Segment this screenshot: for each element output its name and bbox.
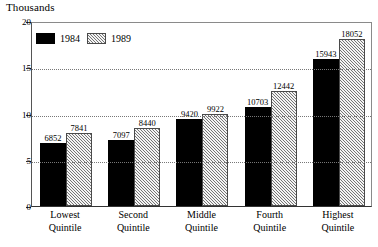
y-axis: 05101520: [0, 0, 31, 247]
bar-value-label: 8440: [139, 119, 156, 128]
bar-group: 68527841: [32, 23, 100, 206]
bar-1989-second-quintile: 8440: [134, 128, 160, 206]
x-axis-label-line1: Middle: [187, 209, 216, 220]
legend-item-1989: 1989: [87, 33, 131, 44]
bar-value-label: 10703: [247, 98, 268, 107]
gridline: [32, 116, 371, 117]
y-tick-label: 5: [7, 157, 31, 166]
x-axis-label-line1: Fourth: [256, 209, 283, 220]
bar-value-label: 15943: [315, 50, 336, 59]
x-axis-label-middle-quintile: MiddleQuintile: [167, 209, 235, 234]
x-axis-category-labels: LowestQuintileSecondQuintileMiddleQuinti…: [31, 209, 372, 247]
x-axis-label-line1: Lowest: [50, 209, 79, 220]
x-axis-label-lowest-quintile: LowestQuintile: [31, 209, 99, 234]
legend-item-1984: 1984: [36, 33, 80, 44]
bar-1984-highest-quintile: 15943: [313, 59, 339, 206]
y-tick-label: 10: [7, 111, 31, 120]
gridline: [32, 69, 371, 70]
legend-label-1989: 1989: [111, 33, 131, 44]
x-axis-label-line1: Highest: [322, 209, 353, 220]
bar-value-label: 7841: [71, 124, 88, 133]
gridline: [32, 162, 371, 163]
y-tick-label: 15: [7, 64, 31, 73]
legend-swatch-1984: [36, 33, 55, 44]
bar-1989-fourth-quintile: 12442: [271, 91, 297, 206]
bar-1984-second-quintile: 7097: [108, 140, 134, 206]
y-tick-label: 20: [7, 18, 31, 27]
plot-area: 6852784170978440942099221070312442159431…: [31, 22, 372, 207]
bar-group: 70978440: [100, 23, 168, 206]
bar-group: 94209922: [168, 23, 236, 206]
x-axis-label-fourth-quintile: FourthQuintile: [236, 209, 304, 234]
bar-1989-lowest-quintile: 7841: [66, 133, 92, 206]
x-axis-label-line1: Second: [119, 209, 148, 220]
bar-value-label: 12442: [273, 82, 294, 91]
bar-1984-lowest-quintile: 6852: [40, 143, 66, 206]
bar-chart: Thousands 05101520 685278417097844094209…: [0, 0, 378, 247]
x-axis-label-line2: Quintile: [236, 222, 304, 235]
legend-swatch-1989: [87, 33, 106, 44]
x-axis-label-highest-quintile: HighestQuintile: [304, 209, 372, 234]
x-axis-label-line2: Quintile: [99, 222, 167, 235]
x-axis-label-line2: Quintile: [31, 222, 99, 235]
x-axis-label-line2: Quintile: [167, 222, 235, 235]
bar-1989-highest-quintile: 18052: [339, 39, 365, 206]
bar-value-label: 9922: [207, 105, 224, 114]
bar-value-label: 7097: [113, 131, 130, 140]
bar-value-label: 9420: [181, 110, 198, 119]
x-axis-label-second-quintile: SecondQuintile: [99, 209, 167, 234]
bar-value-label: 18052: [341, 30, 362, 39]
bar-group: 1070312442: [237, 23, 305, 206]
x-axis-label-line2: Quintile: [304, 222, 372, 235]
bar-group: 1594318052: [305, 23, 373, 206]
bars-layer: 6852784170978440942099221070312442159431…: [32, 23, 371, 206]
bar-1984-fourth-quintile: 10703: [245, 107, 271, 206]
bar-value-label: 6852: [45, 134, 62, 143]
chart-legend: 1984 1989: [36, 33, 131, 44]
bar-1989-middle-quintile: 9922: [202, 114, 228, 206]
y-tick-label: 0: [7, 203, 31, 212]
legend-label-1984: 1984: [60, 33, 80, 44]
